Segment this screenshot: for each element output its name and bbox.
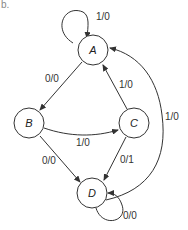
edge-label-a-a: 1/0 [96,11,110,22]
edge-label-b-d: 0/0 [42,155,56,166]
edge-label-c-a: 1/0 [119,79,133,90]
state-b: B [14,108,44,138]
edge-label-d-a: 1/0 [165,111,179,122]
state-c-label: C [130,117,138,129]
state-b-label: B [25,117,32,129]
edge-label-d-d: 0/0 [123,210,137,221]
edge-label-b-c: 1/0 [76,137,90,148]
figure-label: b. [1,0,9,10]
state-a: A [78,35,108,65]
edge-label-a-b: 0/0 [45,73,59,84]
state-c: C [119,108,149,138]
state-a-label: A [88,44,96,56]
edge-a-b [40,62,82,110]
state-d: D [77,178,107,208]
state-d-label: D [88,187,96,199]
edge-label-c-d: 0/1 [120,154,134,165]
edge-b-c [44,128,118,135]
state-diagram: b. 1/0 0/0 1/0 1/0 1/0 0/0 0/1 0/0 A B C… [0,0,188,230]
